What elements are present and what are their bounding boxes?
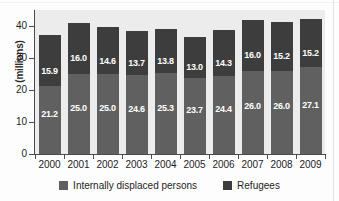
bar-segment-idp: 26.0 [242, 71, 264, 154]
legend-swatch [223, 181, 232, 190]
bar-value-label: 25.0 [99, 103, 116, 113]
bar-column: 13.825.3 [155, 29, 177, 154]
y-tick-label: 0 [0, 148, 27, 159]
bar-value-label: 24.6 [128, 104, 145, 114]
bar-column: 13.023.7 [184, 37, 206, 154]
y-tick-label: 10 [0, 116, 27, 127]
bar-segment-idp: 23.7 [184, 78, 206, 154]
bar-value-label: 13.7 [128, 58, 145, 68]
bar-segment-idp: 27.1 [300, 67, 322, 154]
bar-value-label: 15.2 [273, 51, 290, 61]
legend-label: Internally displaced persons [73, 180, 197, 191]
bar-segment-idp: 24.6 [126, 75, 148, 154]
bar-value-label: 26.0 [244, 101, 261, 111]
bar-segment-idp: 26.0 [271, 71, 293, 154]
x-tick-label: 2009 [293, 159, 329, 170]
bar-segment-refugees: 13.0 [184, 37, 206, 79]
bar-segment-refugees: 13.7 [126, 31, 148, 75]
y-tick-mark [29, 90, 34, 91]
bar-segment-idp: 25.0 [97, 74, 119, 154]
bar-column: 15.226.0 [271, 22, 293, 154]
bar-value-label: 25.0 [70, 103, 87, 113]
bar-segment-refugees: 16.0 [242, 20, 264, 71]
bar-segment-refugees: 14.6 [97, 27, 119, 74]
bar-value-label: 15.2 [302, 48, 319, 58]
y-tick-mark [29, 122, 34, 123]
bar-column: 13.724.6 [126, 31, 148, 154]
bar-column: 14.625.0 [97, 27, 119, 154]
bar-segment-idp: 24.4 [213, 76, 235, 154]
y-tick-mark [29, 58, 34, 59]
bar-value-label: 27.1 [302, 100, 319, 110]
y-tick-mark [29, 154, 34, 155]
bar-column: 14.324.4 [213, 30, 235, 154]
bar-value-label: 16.0 [244, 50, 261, 60]
bar-segment-idp: 21.2 [39, 86, 61, 154]
stacked-bar-chart: (millions) 010203040 2000200120022003200… [0, 0, 339, 201]
frame-top-rule [0, 2, 339, 3]
y-tick-label: 30 [0, 52, 27, 63]
legend-item: Internally displaced persons [59, 180, 197, 191]
chart-legend: Internally displaced personsRefugees [0, 180, 339, 191]
legend-swatch [59, 181, 68, 190]
legend-item: Refugees [223, 180, 280, 191]
bar-segment-refugees: 15.9 [39, 35, 61, 86]
bar-value-label: 16.0 [70, 53, 87, 63]
bar-value-label: 25.3 [157, 103, 174, 113]
bar-column: 15.227.1 [300, 19, 322, 154]
y-tick-label: 20 [0, 84, 27, 95]
bar-value-label: 14.6 [99, 56, 116, 66]
bar-segment-idp: 25.3 [155, 73, 177, 154]
bar-column: 16.026.0 [242, 20, 264, 154]
bar-column: 15.921.2 [39, 35, 61, 154]
bar-segment-refugees: 13.8 [155, 29, 177, 73]
bar-value-label: 14.3 [215, 58, 232, 68]
bar-segment-refugees: 16.0 [68, 23, 90, 74]
bar-value-label: 13.8 [157, 56, 174, 66]
bar-segment-idp: 25.0 [68, 74, 90, 154]
bar-segment-refugees: 15.2 [271, 22, 293, 71]
bar-value-label: 23.7 [186, 105, 203, 115]
y-tick-label: 40 [0, 20, 27, 31]
bar-value-label: 21.2 [41, 109, 58, 119]
legend-label: Refugees [237, 180, 280, 191]
y-tick-mark [29, 26, 34, 27]
bar-value-label: 13.0 [186, 62, 203, 72]
bar-segment-refugees: 15.2 [300, 19, 322, 68]
bar-column: 16.025.0 [68, 23, 90, 154]
bar-value-label: 24.4 [215, 104, 232, 114]
bar-segment-refugees: 14.3 [213, 30, 235, 76]
frame-right-rule [333, 0, 334, 201]
bar-value-label: 15.9 [41, 66, 58, 76]
y-axis-line [34, 10, 35, 155]
bar-value-label: 26.0 [273, 101, 290, 111]
